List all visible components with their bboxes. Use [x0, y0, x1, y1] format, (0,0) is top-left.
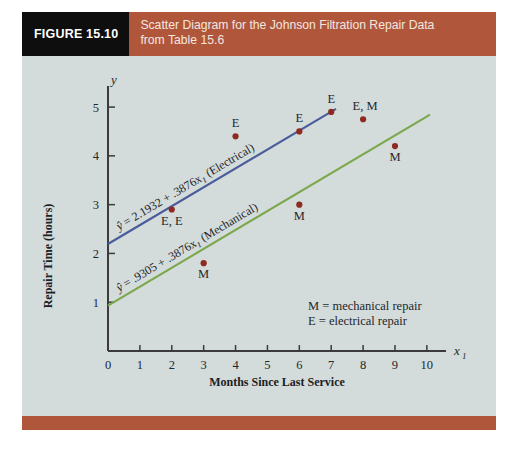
y-tick-label: 2	[93, 247, 99, 261]
scatter-chart: 12345 012345678910 y x 1 Repair Time (ho…	[22, 56, 496, 416]
x-tick-label: 6	[296, 358, 302, 372]
x-tick-label: 4	[232, 358, 239, 372]
legend-entry: E = electrical repair	[308, 314, 408, 328]
figure-caption-line-1: Scatter Diagram for the Johnson Filtrati…	[140, 18, 486, 33]
y-axis-title: Repair Time (hours)	[41, 204, 55, 309]
regression-equations: ŷ = 2.1932 + .3876x1 (Electrical)ŷ = .…	[113, 140, 261, 297]
x-tick-label: 9	[392, 358, 398, 372]
chart-panel: 12345 012345678910 y x 1 Repair Time (ho…	[22, 56, 496, 416]
data-point-label: M	[294, 209, 305, 223]
x-tick-label: 10	[421, 358, 434, 372]
y-axis-variable: y	[109, 72, 117, 87]
data-point-E	[232, 133, 238, 139]
data-point-label: E	[232, 116, 240, 130]
x-tick-label: 3	[201, 358, 207, 372]
figure-caption-line-2: from Table 15.6	[140, 33, 486, 48]
y-tick-label: 1	[93, 296, 99, 310]
data-point-label: E	[296, 111, 304, 125]
x-axis-variable-label: x	[453, 343, 460, 358]
legend-entry: M = mechanical repair	[308, 299, 422, 313]
x-tick-label: 0	[105, 358, 111, 372]
equation-body: = .9305 + .3876x	[118, 236, 199, 292]
data-point-E	[296, 128, 302, 134]
y-axis-ticks: 12345	[93, 101, 115, 310]
data-point-M	[201, 260, 207, 266]
y-tick-label: 4	[93, 149, 100, 163]
data-point-label: E, M	[353, 99, 378, 113]
data-point-M	[296, 202, 302, 208]
x-tick-label: 7	[328, 358, 334, 372]
y-tick-label: 5	[93, 101, 99, 115]
data-point-label: E, E	[161, 214, 183, 228]
equation-suffix: (Mechanical)	[195, 200, 260, 246]
figure-footer-bar	[22, 416, 496, 430]
x-tick-label: 5	[264, 358, 270, 372]
data-point-E	[169, 206, 175, 212]
data-point-EM	[360, 116, 366, 122]
figure-container: FIGURE 15.10 Scatter Diagram for the Joh…	[0, 0, 522, 458]
x-axis-variable: x 1	[453, 343, 467, 361]
data-point-label: E	[327, 92, 335, 106]
x-axis-variable-subscript: 1	[462, 351, 467, 361]
data-point-M	[392, 143, 398, 149]
chart-legend: M = mechanical repairE = electrical repa…	[308, 299, 422, 328]
figure-caption: Scatter Diagram for the Johnson Filtrati…	[129, 12, 496, 56]
x-axis-title: Months Since Last Service	[209, 375, 345, 389]
x-tick-label: 8	[360, 358, 366, 372]
data-point-label: M	[198, 267, 209, 281]
figure-header: FIGURE 15.10 Scatter Diagram for the Joh…	[22, 12, 496, 56]
figure-number-tag: FIGURE 15.10	[22, 12, 129, 56]
data-point-E	[328, 109, 334, 115]
x-axis-ticks: 012345678910	[105, 345, 433, 372]
y-axis-variable-label: y	[109, 72, 117, 87]
x-tick-label: 2	[169, 358, 175, 372]
data-point-label: M	[389, 150, 400, 164]
y-tick-label: 3	[93, 198, 99, 212]
x-tick-label: 1	[137, 358, 143, 372]
